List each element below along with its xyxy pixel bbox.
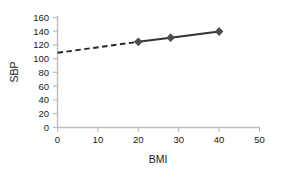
y-tick-label-100: 100 [33, 53, 49, 64]
x-tick-label-10: 10 [93, 134, 104, 145]
x-tick-label-20: 20 [133, 134, 144, 145]
y-axis-title: SBP [8, 61, 20, 82]
x-tick-label-50: 50 [254, 134, 265, 145]
y-tick-label-20: 20 [38, 108, 49, 119]
x-tick-label-30: 30 [173, 134, 184, 145]
x-tick-label-0: 0 [55, 134, 60, 145]
y-tick-label-0: 0 [44, 122, 49, 133]
chart-container: 160 140 120 100 80 60 40 20 0 0 10 20 30… [0, 0, 287, 178]
x-tick-label-40: 40 [214, 134, 225, 145]
x-axis-title: BMI [149, 153, 168, 165]
y-tick-label-120: 120 [33, 39, 49, 50]
y-tick-label-60: 60 [38, 81, 49, 92]
y-tick-label-40: 40 [38, 94, 49, 105]
line-chart: 160 140 120 100 80 60 40 20 0 0 10 20 30… [0, 0, 287, 178]
y-tick-label-160: 160 [33, 12, 49, 23]
y-tick-label-80: 80 [38, 67, 49, 78]
y-tick-label-140: 140 [33, 26, 49, 37]
